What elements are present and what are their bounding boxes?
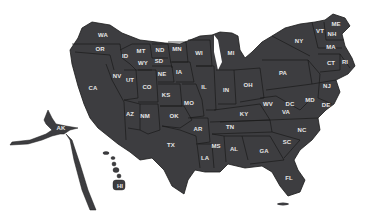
state-label-co[interactable]: CO — [142, 84, 151, 90]
alaska-shape — [10, 110, 96, 210]
state-label-ut[interactable]: UT — [126, 77, 134, 83]
state-label-mi[interactable]: MI — [228, 50, 235, 56]
state-label-hi[interactable]: HI — [117, 183, 123, 189]
state-label-wa[interactable]: WA — [98, 32, 108, 38]
state-label-id[interactable]: ID — [122, 53, 128, 59]
state-label-nv[interactable]: NV — [113, 73, 122, 79]
state-label-az[interactable]: AZ — [126, 111, 134, 117]
us-cartogram-map — [0, 0, 369, 215]
state-label-il[interactable]: IL — [201, 84, 207, 90]
state-label-ct[interactable]: CT — [327, 60, 335, 66]
state-label-al[interactable]: AL — [230, 146, 238, 152]
state-label-or[interactable]: OR — [95, 46, 104, 52]
state-label-ak[interactable]: AK — [57, 125, 66, 131]
state-label-nm[interactable]: NM — [140, 113, 150, 119]
state-label-in[interactable]: IN — [223, 87, 229, 93]
state-label-fl[interactable]: FL — [285, 175, 293, 181]
state-label-ne[interactable]: NE — [158, 71, 167, 77]
state-label-ri[interactable]: RI — [342, 59, 348, 65]
state-label-mn[interactable]: MN — [172, 46, 182, 52]
state-label-me[interactable]: ME — [331, 21, 340, 27]
state-label-nj[interactable]: NJ — [323, 83, 331, 89]
state-label-wv[interactable]: WV — [263, 101, 273, 107]
state-label-tx[interactable]: TX — [167, 142, 175, 148]
state-label-nh[interactable]: NH — [328, 31, 337, 37]
state-label-vt[interactable]: VT — [316, 28, 324, 34]
state-label-ok[interactable]: OK — [169, 113, 178, 119]
state-label-ca[interactable]: CA — [89, 85, 98, 91]
state-label-oh[interactable]: OH — [243, 82, 252, 88]
state-label-de[interactable]: DE — [322, 102, 331, 108]
state-label-ma[interactable]: MA — [326, 44, 336, 50]
state-label-nd[interactable]: ND — [156, 47, 165, 53]
state-label-ky[interactable]: KY — [240, 111, 249, 117]
state-label-sd[interactable]: SD — [155, 58, 164, 64]
state-label-ga[interactable]: GA — [259, 148, 268, 154]
state-label-mt[interactable]: MT — [137, 48, 146, 54]
state-label-wy[interactable]: WY — [138, 60, 148, 66]
state-label-va[interactable]: VA — [282, 109, 290, 115]
state-label-sc[interactable]: SC — [283, 139, 292, 145]
state-label-dc[interactable]: DC — [286, 101, 295, 107]
state-label-mo[interactable]: MO — [184, 100, 194, 106]
state-label-la[interactable]: LA — [201, 155, 209, 161]
state-label-md[interactable]: MD — [305, 97, 315, 103]
contiguous-us-shape — [70, 14, 355, 196]
state-label-tn[interactable]: TN — [226, 124, 234, 130]
state-label-ar[interactable]: AR — [194, 126, 203, 132]
state-label-pa[interactable]: PA — [279, 70, 287, 76]
state-label-ms[interactable]: MS — [211, 143, 220, 149]
state-label-wi[interactable]: WI — [195, 50, 203, 56]
state-label-ny[interactable]: NY — [295, 38, 304, 44]
state-label-ks[interactable]: KS — [162, 92, 171, 98]
state-label-nc[interactable]: NC — [298, 127, 307, 133]
state-label-ia[interactable]: IA — [176, 69, 182, 75]
